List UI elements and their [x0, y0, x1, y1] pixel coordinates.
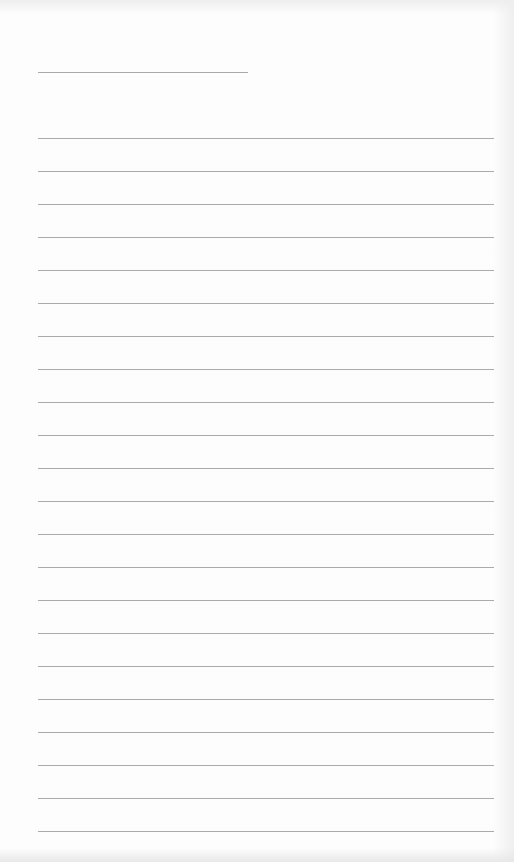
ruled-line: [38, 699, 494, 700]
ruled-line: [38, 369, 494, 370]
ruled-line: [38, 798, 494, 799]
ruled-line: [38, 303, 494, 304]
ruled-line: [38, 732, 494, 733]
ruled-line: [38, 600, 494, 601]
ruled-line: [38, 831, 494, 832]
ruled-line: [38, 270, 494, 271]
ruled-line: [38, 567, 494, 568]
ruled-line: [38, 468, 494, 469]
ruled-line: [38, 402, 494, 403]
header-name-line: [38, 72, 248, 73]
ruled-line: [38, 633, 494, 634]
ruled-line: [38, 336, 494, 337]
ruled-line: [38, 204, 494, 205]
ruled-line: [38, 171, 494, 172]
ruled-line: [38, 534, 494, 535]
ruled-line: [38, 765, 494, 766]
lined-paper-sheet: [0, 0, 514, 862]
ruled-line: [38, 138, 494, 139]
ruled-line: [38, 237, 494, 238]
ruled-line: [38, 666, 494, 667]
ruled-line: [38, 501, 494, 502]
ruled-line: [38, 435, 494, 436]
